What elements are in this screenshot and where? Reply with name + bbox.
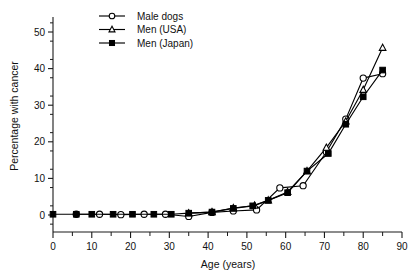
x-tick-label: 30 <box>164 241 176 252</box>
data-point-filled-square <box>304 168 310 174</box>
x-axis-title: Age (years) <box>201 258 255 270</box>
series-0 <box>73 71 386 220</box>
data-point-filled-square <box>343 121 349 127</box>
data-point-filled-square <box>360 94 366 100</box>
y-tick-label: 30 <box>34 100 46 111</box>
legend-label: Male dogs <box>137 11 183 22</box>
data-point-filled-square <box>89 211 95 217</box>
x-tick-label: 80 <box>358 241 370 252</box>
data-point-filled-square <box>186 210 192 216</box>
legend-item-2[interactable]: Men (Japan) <box>99 38 193 49</box>
data-point-filled-square <box>50 211 56 217</box>
x-tick-label: 50 <box>241 241 253 252</box>
legend-label: Men (Japan) <box>137 38 193 49</box>
data-point-open-triangle <box>379 44 386 50</box>
data-point-filled-square <box>130 211 136 217</box>
legend-item-0[interactable]: Male dogs <box>99 11 183 22</box>
data-point-filled-square <box>285 190 291 196</box>
x-axis: 0102030405060708090 <box>50 232 408 252</box>
legend-label: Men (USA) <box>137 24 186 35</box>
data-point-open-triangle <box>109 26 115 32</box>
y-tick-label: 10 <box>34 173 46 184</box>
series-polyline <box>189 48 383 213</box>
data-point-filled-square <box>326 151 332 157</box>
y-tick-label: 50 <box>34 27 46 38</box>
legend-item-1[interactable]: Men (USA) <box>99 24 186 35</box>
data-point-filled-square <box>231 206 237 212</box>
y-axis: 01020304050 <box>34 17 53 232</box>
data-point-filled-square <box>250 203 256 209</box>
x-tick-label: 60 <box>280 241 292 252</box>
data-point-filled-square <box>168 211 174 217</box>
data-point-filled-square <box>265 198 271 204</box>
cancer-incidence-chart: 01020304050 0102030405060708090 Percenta… <box>0 0 418 279</box>
y-tick-label: 40 <box>34 63 46 74</box>
x-tick-label: 40 <box>203 241 215 252</box>
data-point-open-circle <box>300 183 306 189</box>
data-point-filled-square <box>209 209 215 215</box>
data-point-filled-square <box>73 211 79 217</box>
y-axis-title: Percentage with cancer <box>8 61 20 171</box>
data-point-filled-square <box>110 211 116 217</box>
x-tick-label: 20 <box>125 241 137 252</box>
y-tick-label: 20 <box>34 136 46 147</box>
series-polyline <box>53 70 383 214</box>
data-point-filled-square <box>380 67 386 73</box>
data-point-filled-square <box>109 40 114 45</box>
series-2 <box>50 67 385 217</box>
y-tick-label: 0 <box>39 210 45 221</box>
data-point-open-circle <box>277 185 283 191</box>
chart-canvas: 01020304050 0102030405060708090 Percenta… <box>0 0 418 279</box>
x-tick-label: 0 <box>50 241 56 252</box>
series-polyline <box>76 74 382 217</box>
x-tick-label: 70 <box>319 241 331 252</box>
data-point-open-circle <box>109 13 115 19</box>
chart-legend: Male dogsMen (USA)Men (Japan) <box>99 11 193 49</box>
data-point-open-triangle <box>360 86 367 92</box>
x-tick-label: 10 <box>86 241 98 252</box>
x-tick-label: 90 <box>396 241 408 252</box>
data-point-open-circle <box>360 75 366 81</box>
data-point-filled-square <box>151 211 157 217</box>
data-series-group <box>50 44 386 219</box>
